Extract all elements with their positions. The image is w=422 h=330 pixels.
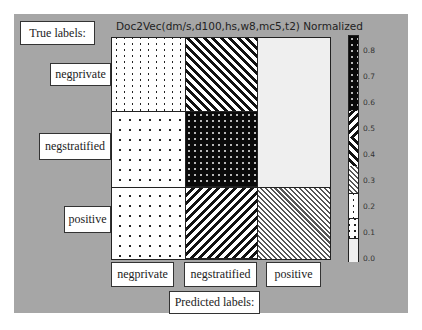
cell-negstratified-negstratified: [185, 111, 258, 187]
colorbar-seg-0.0-0.1: [349, 238, 358, 262]
cell-positive-positive: [258, 187, 330, 259]
col-label-negprivate: negprivate: [111, 262, 174, 287]
colorbar-tick: 0.7: [363, 72, 375, 81]
colorbar-seg-0.15-0.25: [349, 193, 358, 219]
confusion-matrix: [111, 37, 331, 260]
row-label-negprivate: negprivate: [50, 63, 111, 86]
chart-title: Doc2Vec(dm/s,d100,hs,w8,mc5,t2) Normaliz…: [116, 20, 363, 32]
row-label-positive: positive: [64, 206, 111, 233]
colorbar-tick: 0.1: [363, 228, 375, 237]
colorbar-tick: 0.8: [363, 46, 375, 55]
colorbar-seg-0.55-0.85: [349, 36, 358, 111]
cell-negprivate-positive: [258, 38, 330, 111]
colorbar-seg-0.35-0.45: [349, 138, 358, 166]
predicted-labels-box: Predicted labels:: [169, 291, 260, 314]
col-label-negstratified: negstratified: [184, 262, 257, 287]
colorbar-tick: 0.5: [363, 124, 375, 133]
colorbar: [348, 35, 359, 262]
cell-negstratified-positive: [258, 111, 330, 187]
true-labels-box: True labels:: [20, 21, 95, 45]
colorbar-tick: 0.4: [363, 150, 375, 159]
cell-negprivate-negprivate: [112, 38, 185, 111]
colorbar-tick: 0.0: [363, 254, 375, 263]
cell-negstratified-negprivate: [112, 111, 185, 187]
colorbar-tick: 0.6: [363, 98, 375, 107]
colorbar-tick: 0.2: [363, 202, 375, 211]
col-label-positive: positive: [266, 262, 321, 287]
colorbar-seg-0.25-0.35: [349, 166, 358, 193]
cell-positive-negprivate: [112, 187, 185, 259]
cell-positive-negstratified: [185, 187, 258, 259]
colorbar-seg-0.1-0.15: [349, 218, 358, 239]
colorbar-seg-0.45-0.55: [349, 111, 358, 138]
cell-negprivate-negstratified: [185, 38, 258, 111]
colorbar-tick: 0.3: [363, 176, 375, 185]
row-label-negstratified: negstratified: [39, 133, 111, 160]
